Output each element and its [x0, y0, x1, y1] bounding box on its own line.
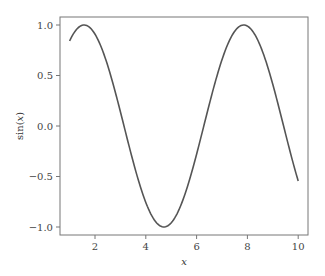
- y-tick-label: −0.5: [29, 171, 53, 182]
- x-tick-label: 10: [292, 241, 305, 252]
- sine-curve: [70, 25, 299, 227]
- x-tick-label: 4: [143, 241, 149, 252]
- x-tick-label: 8: [244, 241, 250, 252]
- x-axis-label: x: [181, 256, 187, 267]
- sine-chart: 1.00.50.0−0.5−1.0 246810 x sin(x): [0, 0, 325, 276]
- y-tick-label: 0.0: [37, 121, 53, 132]
- x-axis: 246810: [92, 235, 305, 252]
- y-tick-label: 1.0: [37, 20, 53, 31]
- y-tick-label: 0.5: [37, 70, 53, 81]
- y-tick-label: −1.0: [29, 222, 53, 233]
- plot-area: [60, 17, 308, 235]
- y-axis: 1.00.50.0−0.5−1.0: [29, 20, 60, 233]
- x-tick-label: 6: [193, 241, 199, 252]
- x-tick-label: 2: [92, 241, 98, 252]
- y-axis-label: sin(x): [14, 112, 25, 140]
